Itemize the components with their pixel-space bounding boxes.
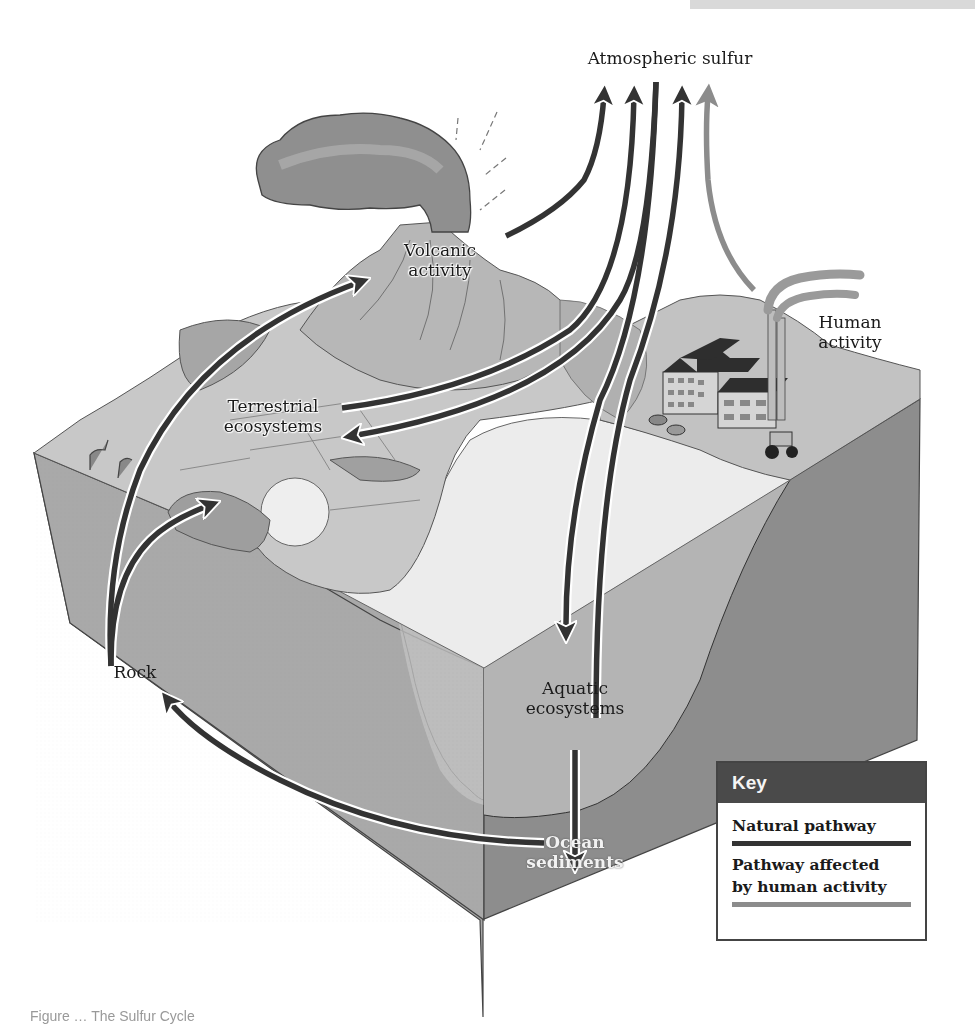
terrestrial-label-line1: Terrestrial (208, 396, 338, 416)
aquatic-label-line1: Aquatic (505, 678, 645, 698)
legend-natural-swatch (732, 841, 911, 846)
arrow-human-to-atmosphere (707, 95, 755, 290)
volcanic-label-line2: activity (380, 260, 500, 280)
legend-human-label-line1: Pathway affected (718, 854, 925, 876)
human-label-line2: activity (790, 332, 910, 352)
human-label-line1: Human (790, 312, 910, 332)
node-ocean-sediments: Ocean sediments (505, 832, 645, 872)
node-rock: Rock (100, 662, 170, 682)
atmospheric-sulfur-label: Atmospheric sulfur (588, 48, 753, 68)
lake (261, 478, 329, 546)
node-aquatic-ecosystems: Aquatic ecosystems (505, 678, 645, 718)
node-atmospheric-sulfur: Atmospheric sulfur (560, 48, 780, 68)
legend-human-label-line2: by human activity (718, 876, 925, 898)
ocean-label-line2: sediments (505, 852, 645, 872)
rock-label: Rock (114, 662, 157, 682)
legend-natural-label: Natural pathway (718, 815, 925, 837)
ocean-label-line1: Ocean (505, 832, 645, 852)
legend-human-swatch (732, 902, 911, 907)
node-volcanic-activity: Volcanic activity (380, 240, 500, 280)
legend-title: Key (718, 763, 925, 803)
node-human-activity: Human activity (790, 312, 910, 352)
volcanic-plume (256, 113, 470, 232)
arrow-volcanic-to-atmosphere (506, 95, 604, 236)
terrestrial-label-line2: ecosystems (208, 416, 338, 436)
aquatic-label-line2: ecosystems (505, 698, 645, 718)
figure-caption-cropped: Figure … The Sulfur Cycle (30, 1008, 195, 1024)
node-terrestrial-ecosystems: Terrestrial ecosystems (208, 396, 338, 436)
volcanic-label-line1: Volcanic (380, 240, 500, 260)
legend-key: Key Natural pathway Pathway affected by … (716, 761, 927, 941)
